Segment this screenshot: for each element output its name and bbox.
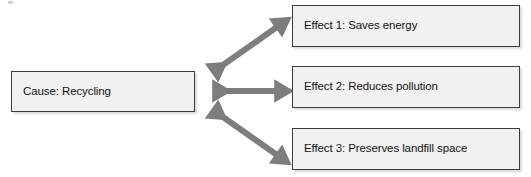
connector-cause-to-effect-3 — [213, 110, 277, 155]
effect-node-2-label: Effect 2: Reduces pollution — [293, 80, 438, 93]
diagram-canvas: Cause: Recycling Effect 1: Saves energy … — [0, 0, 531, 177]
effect-node-1[interactable]: Effect 1: Saves energy — [292, 5, 520, 47]
scan-artifact-speck — [8, 1, 13, 4]
cause-node[interactable]: Cause: Recycling — [11, 71, 195, 112]
effect-node-2[interactable]: Effect 2: Reduces pollution — [292, 66, 520, 108]
effect-node-1-label: Effect 1: Saves energy — [293, 19, 417, 32]
effect-node-3-label: Effect 3: Preserves landfill space — [293, 142, 467, 155]
effect-node-3[interactable]: Effect 3: Preserves landfill space — [292, 128, 520, 170]
connector-cause-to-effect-1 — [213, 27, 277, 72]
cause-node-label: Cause: Recycling — [12, 85, 111, 98]
